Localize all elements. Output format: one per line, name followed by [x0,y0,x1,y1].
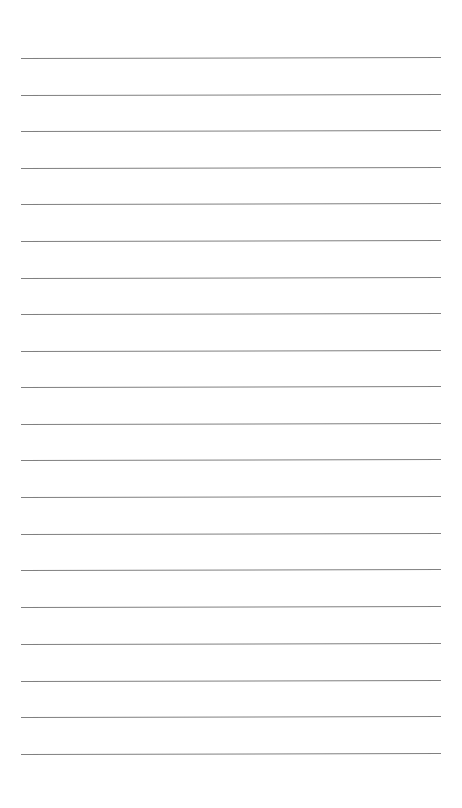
ruled-line [21,386,441,388]
ruled-line [21,57,441,59]
ruled-line [21,423,441,425]
ruled-line [21,496,441,498]
lined-sheet [0,0,462,808]
ruled-line [21,569,441,571]
ruled-line [21,203,441,205]
ruled-line [21,313,441,315]
ruled-line [21,167,441,169]
ruled-line [21,277,441,279]
ruled-line [21,240,441,242]
ruled-line [21,459,441,461]
ruled-line [21,680,441,682]
ruled-line [21,94,441,96]
ruled-line [21,643,441,645]
ruled-line [21,350,441,352]
ruled-line [21,130,441,132]
ruled-line [21,716,441,718]
ruled-line [21,533,441,535]
ruled-line [21,606,441,608]
ruled-line [21,753,441,755]
